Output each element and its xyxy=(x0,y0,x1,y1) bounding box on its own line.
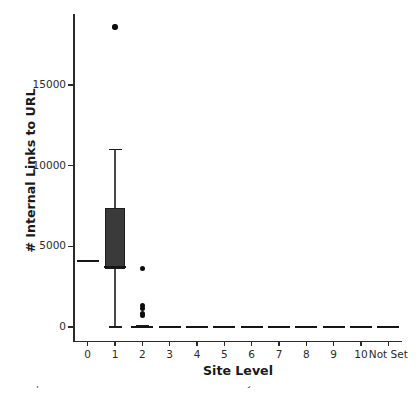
caption-text: Example distribution of internal links t… xyxy=(8,386,301,388)
x-tick-label: 4 xyxy=(194,349,201,360)
x-tick-label: 2 xyxy=(139,349,146,360)
median-line xyxy=(77,260,99,262)
x-tick-mark xyxy=(278,341,280,346)
clipped-caption: Example distribution of internal links t… xyxy=(0,386,417,396)
whisker-cap-upper xyxy=(109,149,122,150)
median-line xyxy=(213,326,235,328)
x-tick-mark xyxy=(196,341,198,346)
x-tick-mark xyxy=(333,341,335,346)
x-tick-mark xyxy=(306,341,308,346)
x-tick-label: 3 xyxy=(166,349,173,360)
x-tick-label: 5 xyxy=(221,349,228,360)
median-line xyxy=(104,266,126,268)
x-tick-label: 6 xyxy=(248,349,255,360)
x-tick-label: 8 xyxy=(303,349,310,360)
y-tick-mark xyxy=(68,165,73,167)
x-tick-mark xyxy=(224,341,226,346)
plot-area xyxy=(74,14,404,327)
y-tick-mark xyxy=(68,84,73,86)
x-axis-spine xyxy=(73,341,402,343)
x-tick-mark xyxy=(114,341,116,346)
y-tick-label: 0 xyxy=(59,321,66,332)
whisker-lower xyxy=(114,269,115,327)
x-axis-label: Site Level xyxy=(73,364,403,378)
median-line xyxy=(131,326,153,328)
y-tick-mark xyxy=(68,326,73,328)
x-tick-mark xyxy=(87,341,89,346)
x-tick-label: Not Set xyxy=(369,349,408,360)
y-tick-label: 5000 xyxy=(39,240,66,251)
box xyxy=(105,208,125,269)
y-tick-mark xyxy=(68,246,73,248)
x-tick-label: 1 xyxy=(112,349,119,360)
y-tick-label: 10000 xyxy=(33,160,66,171)
y-tick-label: 15000 xyxy=(33,79,66,90)
median-line xyxy=(268,326,290,328)
x-tick-mark xyxy=(360,341,362,346)
median-line xyxy=(350,326,372,328)
whisker-cap-lower xyxy=(109,326,122,327)
x-tick-label: 7 xyxy=(276,349,283,360)
median-line xyxy=(241,326,263,328)
x-tick-mark xyxy=(251,341,253,346)
median-line xyxy=(377,326,399,328)
x-tick-label: 0 xyxy=(84,349,91,360)
median-line xyxy=(323,326,345,328)
median-line xyxy=(295,326,317,328)
x-tick-mark xyxy=(388,341,390,346)
median-line xyxy=(186,326,208,328)
median-line xyxy=(159,326,181,328)
boxplot-figure: # Internal Links to URL 050001000015000 … xyxy=(0,0,417,396)
outlier-point xyxy=(112,24,117,29)
outlier-point xyxy=(140,266,145,271)
x-tick-label: 10 xyxy=(354,349,367,360)
x-tick-label: 9 xyxy=(330,349,337,360)
whisker-upper xyxy=(114,150,115,208)
x-tick-mark xyxy=(169,341,171,346)
outlier-point xyxy=(140,313,145,318)
x-tick-mark xyxy=(142,341,144,346)
